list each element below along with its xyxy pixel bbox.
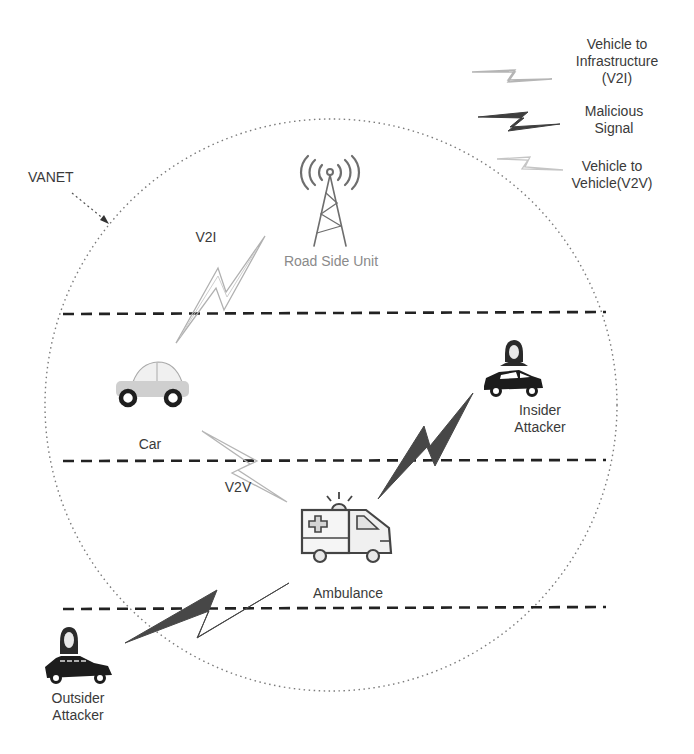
insider-line-2: Attacker <box>500 419 580 436</box>
legend-v2v-line-1: Vehicle to <box>558 158 666 175</box>
ambulance-icon <box>302 492 391 562</box>
lane-line-3 <box>63 607 606 609</box>
insider-malicious-bolt <box>378 393 473 499</box>
legend-malicious-line-1: Malicious <box>566 103 662 120</box>
outsider-attacker-icon <box>45 627 112 683</box>
legend-malicious-line-2: Signal <box>566 120 662 137</box>
outsider-malicious-bolt <box>125 583 289 643</box>
lane-line-2 <box>63 460 606 461</box>
legend-v2i-line-2: Infrastructure <box>562 53 672 70</box>
legend-v2v-label: Vehicle to Vehicle(V2V) <box>558 158 666 192</box>
rsu-tower-icon <box>301 156 359 246</box>
insider-line-1: Insider <box>500 402 580 419</box>
legend-v2i-line-1: Vehicle to <box>562 36 672 53</box>
insider-attacker-icon <box>484 340 543 396</box>
legend-v2v-bolt-icon <box>497 157 563 170</box>
insider-attacker-label: Insider Attacker <box>500 402 580 436</box>
v2v-link-label: V2V <box>218 479 258 496</box>
car-label: Car <box>130 436 170 453</box>
rsu-label: Road Side Unit <box>268 253 394 270</box>
ambulance-label: Ambulance <box>298 585 398 602</box>
outsider-attacker-label: Outsider Attacker <box>38 690 118 724</box>
legend-malicious-bolt-icon <box>478 112 560 131</box>
lane-line-1 <box>63 312 606 314</box>
legend-malicious-label: Malicious Signal <box>566 103 662 137</box>
outsider-line-1: Outsider <box>38 690 118 707</box>
legend-v2i-label: Vehicle to Infrastructure (V2I) <box>562 36 672 87</box>
road-lanes <box>63 312 606 609</box>
legend-v2i-bolt-icon <box>472 70 552 82</box>
outsider-line-2: Attacker <box>38 707 118 724</box>
vanet-pointer-arrow <box>72 193 109 224</box>
legend-v2i-line-3: (V2I) <box>562 70 672 87</box>
car-icon <box>116 362 189 405</box>
vanet-label: VANET <box>28 169 74 186</box>
legend-v2v-line-2: Vehicle(V2V) <box>558 175 666 192</box>
v2i-link-label: V2I <box>186 229 226 246</box>
v2i-signal-bolt <box>176 236 265 343</box>
